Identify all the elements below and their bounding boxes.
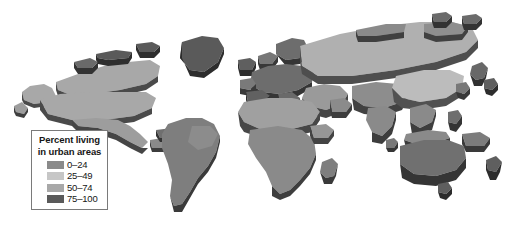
legend-item-0-24: 0–24 bbox=[47, 159, 103, 170]
legend-swatch-0-24 bbox=[47, 161, 64, 169]
legend-swatch-75-100 bbox=[47, 195, 64, 203]
legend-swatch-50-74 bbox=[47, 184, 64, 192]
urban-population-map-figure: Percent living in urban areas 0–24 25–49… bbox=[0, 0, 508, 228]
legend-item-25-49: 25–49 bbox=[47, 171, 103, 182]
legend-title-line-2: in urban areas bbox=[36, 146, 103, 158]
legend-item-75-100: 75–100 bbox=[47, 194, 103, 205]
legend-label-0-24: 0–24 bbox=[67, 160, 87, 170]
legend-label-25-49: 25–49 bbox=[67, 171, 92, 181]
legend-title-line-1: Percent living bbox=[36, 134, 103, 146]
legend-label-50-74: 50–74 bbox=[67, 183, 92, 193]
legend-label-75-100: 75–100 bbox=[67, 194, 98, 204]
legend-entries: 0–24 25–49 50–74 75–100 bbox=[36, 159, 103, 205]
map-legend: Percent living in urban areas 0–24 25–49… bbox=[31, 130, 108, 210]
legend-item-50-74: 50–74 bbox=[47, 182, 103, 193]
legend-swatch-25-49 bbox=[47, 172, 64, 180]
